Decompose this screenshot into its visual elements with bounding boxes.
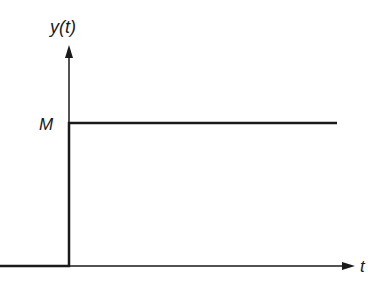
t-axis-label: t (360, 257, 366, 276)
step-function-diagram: y(t) M t (0, 0, 368, 284)
y-axis-label: y(t) (48, 17, 76, 37)
t-axis-arrow-icon (342, 262, 355, 270)
level-label: M (39, 115, 54, 134)
y-axis-arrow-icon (65, 45, 73, 58)
step-signal (0, 123, 337, 266)
